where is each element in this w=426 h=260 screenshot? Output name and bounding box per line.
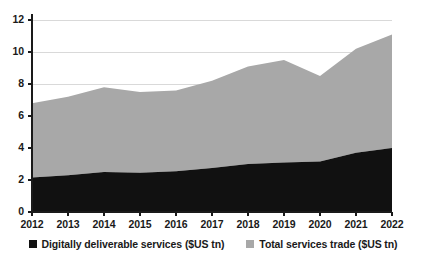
x-axis-tick-label: 2016 bbox=[156, 218, 196, 230]
y-axis-tick-label: 12 bbox=[2, 13, 24, 25]
legend-swatch-icon-light bbox=[246, 240, 254, 248]
x-axis-tick-label: 2017 bbox=[192, 218, 232, 230]
legend-label: Digitally deliverable services ($US tn) bbox=[42, 238, 225, 250]
stacked-area-plot bbox=[0, 0, 426, 232]
legend-label: Total services trade ($US tn) bbox=[259, 238, 397, 250]
y-axis-tick-label: 4 bbox=[2, 141, 24, 153]
x-axis-tick-label: 2021 bbox=[336, 218, 376, 230]
y-axis-tick-label: 6 bbox=[2, 109, 24, 121]
chart-container: 121086420 201220132014201520162017201820… bbox=[0, 0, 426, 260]
area-series bbox=[32, 34, 392, 177]
x-axis-tick-label: 2020 bbox=[300, 218, 340, 230]
y-axis-tick-label: 0 bbox=[2, 205, 24, 217]
x-axis-tick-label: 2022 bbox=[372, 218, 412, 230]
x-axis-tick-label: 2018 bbox=[228, 218, 268, 230]
legend-swatch-icon-dark bbox=[29, 240, 37, 248]
x-axis-tick-label: 2012 bbox=[12, 218, 52, 230]
x-axis-tick-label: 2019 bbox=[264, 218, 304, 230]
area-series-group bbox=[32, 34, 392, 212]
chart-legend: Digitally deliverable services ($US tn) … bbox=[0, 234, 426, 254]
y-axis-tick-label: 2 bbox=[2, 173, 24, 185]
y-axis-tick-label: 10 bbox=[2, 45, 24, 57]
x-axis-tick-label: 2014 bbox=[84, 218, 124, 230]
legend-item-total-services-trade[interactable]: Total services trade ($US tn) bbox=[246, 238, 397, 250]
y-axis-tick-label: 8 bbox=[2, 77, 24, 89]
x-axis-tick-label: 2013 bbox=[48, 218, 88, 230]
x-axis-tick-label: 2015 bbox=[120, 218, 160, 230]
legend-item-digitally-deliverable-services[interactable]: Digitally deliverable services ($US tn) bbox=[29, 238, 225, 250]
